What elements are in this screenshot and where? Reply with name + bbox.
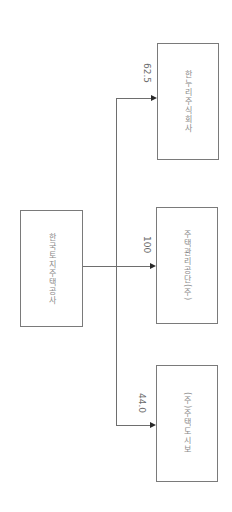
- child-label-1: 한누리주식회사: [183, 70, 194, 133]
- parent-label: 한국토지주택공사: [46, 233, 57, 305]
- child-box-3: (주)주택도시보: [156, 365, 218, 482]
- child-box-2: 주택관리공단(주): [156, 207, 218, 324]
- share-label-1: 62.5: [142, 63, 152, 83]
- parent-connector-line: [83, 266, 117, 267]
- share-label-2: 100: [142, 236, 152, 253]
- share-label-3: 44.0: [137, 393, 147, 413]
- org-diagram: 한국토지주택공사 62.5 100 44.0 한누리주식회사 주택관리공단(주)…: [0, 0, 232, 512]
- branch-line-2: [116, 266, 151, 267]
- child-box-1: 한누리주식회사: [157, 43, 219, 160]
- branch-line-1: [116, 98, 152, 99]
- child-label-2: 주택관리공단(주): [182, 230, 193, 301]
- parent-box: 한국토지주택공사: [20, 210, 83, 327]
- branch-line-3: [116, 425, 151, 426]
- child-label-3: (주)주택도시보: [182, 392, 193, 454]
- trunk-line: [116, 98, 117, 426]
